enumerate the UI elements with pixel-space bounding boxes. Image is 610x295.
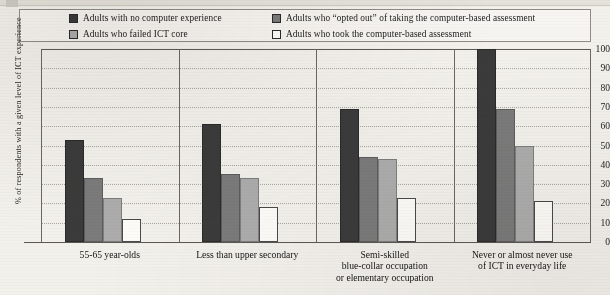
legend-item-failed-ict-core[interactable]: Adults who failed ICT core xyxy=(69,29,272,40)
bar-group xyxy=(477,49,553,242)
bar[interactable] xyxy=(397,198,416,242)
legend-swatch-icon xyxy=(272,14,281,23)
legend-label: Adults who failed ICT core xyxy=(83,29,188,40)
bar-group xyxy=(202,49,278,242)
x-axis-label-line: or elementary occupation xyxy=(316,272,454,283)
bar[interactable] xyxy=(496,109,515,242)
x-axis-label-line: of ICT in everyday life xyxy=(454,260,592,271)
bar[interactable] xyxy=(84,178,103,242)
x-axis-label-line: Never or almost never use xyxy=(454,249,592,260)
page-top-edge xyxy=(0,0,610,6)
bar[interactable] xyxy=(103,198,122,242)
chart-legend: Adults with no computer experience Adult… xyxy=(19,9,591,42)
bar[interactable] xyxy=(534,201,553,242)
y-axis-title: % of respondents with a given level of I… xyxy=(14,11,23,211)
legend-swatch-icon xyxy=(69,30,78,39)
legend-item-no-computer-experience[interactable]: Adults with no computer experience xyxy=(69,13,272,24)
bar[interactable] xyxy=(359,157,378,242)
plot-area xyxy=(41,49,591,242)
bar-group xyxy=(340,49,416,242)
group-separator xyxy=(316,49,317,242)
bar[interactable] xyxy=(221,174,240,242)
legend-swatch-icon xyxy=(272,30,281,39)
bar[interactable] xyxy=(378,159,397,242)
group-separator xyxy=(454,49,455,242)
x-axis-label-line: 55-65 year-olds xyxy=(41,249,179,260)
y-axis: % of respondents with a given level of I… xyxy=(0,0,38,295)
legend-label: Adults who “opted out” of taking the com… xyxy=(286,13,535,24)
bar[interactable] xyxy=(259,207,278,242)
group-separator xyxy=(179,49,180,242)
x-axis-label: Less than upper secondary xyxy=(179,249,317,260)
legend-swatch-icon xyxy=(69,14,78,23)
legend-label: Adults with no computer experience xyxy=(83,13,222,24)
legend-label: Adults who took the computer-based asses… xyxy=(286,29,471,40)
x-axis-label: Semi-skilledblue-collar occupationor ele… xyxy=(316,249,454,283)
x-axis-label-line: blue-collar occupation xyxy=(316,260,454,271)
x-axis-label-line: Less than upper secondary xyxy=(179,249,317,260)
bar-group xyxy=(65,49,141,242)
bar[interactable] xyxy=(240,178,259,242)
x-axis-label-line: Semi-skilled xyxy=(316,249,454,260)
x-axis-label: 55-65 year-olds xyxy=(41,249,179,260)
legend-row-2: Adults who failed ICT core Adults who to… xyxy=(20,26,590,42)
bar[interactable] xyxy=(122,219,141,242)
x-axis-label: Never or almost never useof ICT in every… xyxy=(454,249,592,272)
bar[interactable] xyxy=(340,109,359,242)
bar[interactable] xyxy=(477,49,496,242)
legend-row-1: Adults with no computer experience Adult… xyxy=(20,10,590,26)
bar[interactable] xyxy=(202,124,221,242)
legend-item-opted-out[interactable]: Adults who “opted out” of taking the com… xyxy=(272,13,535,24)
legend-item-took-assessment[interactable]: Adults who took the computer-based asses… xyxy=(272,29,471,40)
bar[interactable] xyxy=(515,146,534,243)
axis-line-bottom xyxy=(24,242,591,243)
bar[interactable] xyxy=(65,140,84,242)
